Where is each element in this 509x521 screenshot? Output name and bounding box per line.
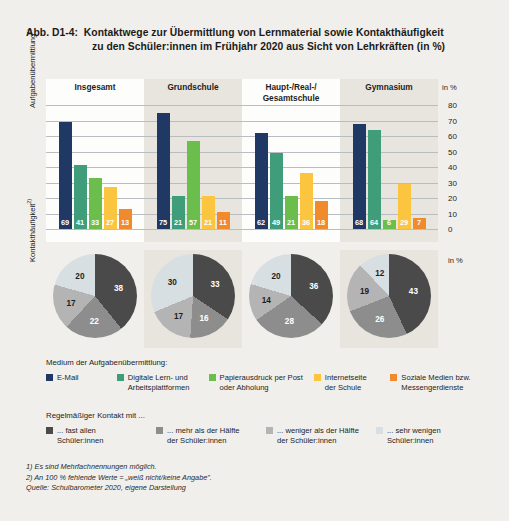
legend-item[interactable]: Internetseiteder Schule (314, 373, 391, 392)
bar[interactable]: 21 (285, 196, 298, 229)
legend-item[interactable]: E-Mail (46, 373, 117, 392)
legend-item-label: E-Mail (57, 373, 79, 383)
bar[interactable]: 11 (217, 212, 230, 229)
bar-value-label: 33 (89, 218, 102, 227)
pie-chart[interactable]: 36281420 (249, 254, 333, 338)
pies-axis-label: Kontakthäufigkeit2) (26, 199, 37, 262)
legend-item-label: Digitale Lern- undArbeitsplattformen (128, 373, 190, 392)
legend-item[interactable]: ... weniger als der Hälfteder Schüler:in… (266, 426, 376, 445)
legend-item[interactable]: ... sehr wenigenSchüler:innen (376, 426, 486, 445)
pie-slice-label: 16 (199, 314, 208, 323)
bar[interactable]: 6 (383, 220, 396, 229)
bar[interactable]: 69 (59, 122, 72, 229)
bar-value-label: 18 (315, 218, 328, 227)
bar-value-label: 57 (187, 218, 200, 227)
figure-title-line2: zu den Schüler:innen im Frühjahr 2020 au… (26, 40, 488, 54)
pie-slice-label: 17 (174, 312, 183, 321)
bar-value-label: 75 (157, 218, 170, 227)
legend-swatch-icon (390, 374, 397, 381)
footnote-1: 1) Es sind Mehrfachnennungen möglich. (26, 462, 486, 473)
y-tick-label: 20 (448, 194, 457, 203)
y-tick-label: 80 (448, 101, 457, 110)
bar-groups: 69413327137521572111624921361868646297 (46, 105, 438, 229)
bars-unit-label: in % (442, 83, 457, 92)
pie-chart[interactable]: 43261912 (347, 254, 431, 338)
y-tick-label: 70 (448, 116, 457, 125)
bar[interactable]: 18 (315, 201, 328, 229)
pie-slice-label: 20 (75, 272, 84, 281)
bar[interactable]: 57 (187, 141, 200, 229)
legend-item[interactable]: Papierausdruck per Postoder Abholung (209, 373, 314, 392)
pie-slice-label: 33 (210, 280, 219, 289)
group-label-insgesamt: Insgesamt (46, 79, 144, 105)
bar-value-label: 36 (300, 218, 313, 227)
legend-item-label: Papierausdruck per Postoder Abholung (220, 373, 303, 392)
bar-group: 68646297 (340, 105, 438, 229)
y-tick-label: 10 (448, 209, 457, 218)
bar-value-label: 13 (119, 218, 132, 227)
bar[interactable]: 68 (353, 124, 366, 229)
group-label-grundschule: Grundschule (144, 79, 242, 105)
bar[interactable]: 36 (300, 173, 313, 229)
bar[interactable]: 49 (270, 153, 283, 229)
legend-item[interactable]: Digitale Lern- undArbeitsplattformen (117, 373, 209, 392)
legend-item-label: ... weniger als der Hälfteder Schüler:in… (277, 426, 359, 445)
bar-legend: Medium der Aufgabenübermittlung: E-MailD… (46, 358, 486, 392)
pie-slice-label: 43 (409, 286, 418, 295)
bar-group: 7521572111 (144, 105, 242, 229)
group-label-gymnasium: Gymnasium (340, 79, 438, 105)
bar[interactable]: 21 (172, 196, 185, 229)
bar[interactable]: 13 (119, 209, 132, 229)
bar-value-label: 27 (104, 218, 117, 227)
legend-swatch-icon (266, 427, 273, 434)
y-tick-label: 30 (448, 178, 457, 187)
bar-chart: Insgesamt Grundschule Haupt-/Real-/ Gesa… (46, 79, 438, 242)
bar[interactable]: 75 (157, 113, 170, 229)
legend-item-label: Soziale Medien bzw.Messengerdienste (401, 373, 470, 392)
pie-slice-label: 12 (375, 268, 384, 277)
bar-value-label: 62 (255, 218, 268, 227)
bar-value-label: 21 (172, 218, 185, 227)
bar[interactable]: 7 (413, 218, 426, 229)
bar-value-label: 49 (270, 218, 283, 227)
bar-group: 6249213618 (242, 105, 340, 229)
legend-item[interactable]: Soziale Medien bzw.Messengerdienste (390, 373, 486, 392)
pie-slice-label: 17 (66, 298, 75, 307)
legend-swatch-icon (314, 374, 321, 381)
figure-title-line1: Kontaktwege zur Übermittlung von Lernmat… (84, 27, 444, 38)
legend-item[interactable]: ... fast allenSchüler:innen (46, 426, 156, 445)
bars-axis-footnote-marker: 1) (26, 29, 32, 34)
pies-axis-footnote-marker: 2) (26, 199, 32, 204)
legend-item-label: Internetseiteder Schule (325, 373, 367, 392)
bar-value-label: 11 (217, 218, 230, 227)
bar-value-label: 21 (202, 218, 215, 227)
pie-slice-label: 19 (360, 286, 369, 295)
bar[interactable]: 21 (202, 196, 215, 229)
pie-legend-title: Regelmäßiger Kontakt mit ... (46, 411, 486, 420)
bar[interactable]: 41 (74, 165, 87, 229)
bar[interactable]: 33 (89, 178, 102, 229)
bar[interactable]: 27 (104, 187, 117, 229)
pie-chart[interactable]: 33161730 (151, 254, 235, 338)
bars-axis-label-text: Aufgabenübermittlung (28, 34, 37, 108)
y-tick-label: 60 (448, 132, 457, 141)
bar-value-label: 68 (353, 218, 366, 227)
pie-slice-label: 20 (271, 271, 280, 280)
bar[interactable]: 64 (368, 130, 381, 229)
footnote-2: 2) An 100 % fehlende Werte = „weiß nicht… (26, 473, 486, 484)
pie-chart[interactable]: 38221720 (53, 254, 137, 338)
legend-swatch-icon (209, 374, 216, 381)
bar[interactable]: 62 (255, 133, 268, 229)
figure-notes: 1) Es sind Mehrfachnennungen möglich. 2)… (26, 462, 486, 494)
legend-item-label: ... sehr wenigenSchüler:innen (387, 426, 441, 445)
pie-slice-label: 14 (262, 295, 271, 304)
bar[interactable]: 29 (398, 184, 411, 229)
legend-item[interactable]: ... mehr als der Hälfteder Schüler:innen (156, 426, 266, 445)
gridline (46, 229, 438, 230)
bar-value-label: 6 (383, 218, 396, 227)
pie-slice-label: 22 (90, 316, 99, 325)
bar-value-label: 21 (285, 218, 298, 227)
group-label-haupt-real-gesamtschule: Haupt-/Real-/ Gesamtschule (242, 79, 340, 105)
pies-unit-label: in % (448, 256, 463, 265)
pie-slice-label: 28 (285, 316, 294, 325)
